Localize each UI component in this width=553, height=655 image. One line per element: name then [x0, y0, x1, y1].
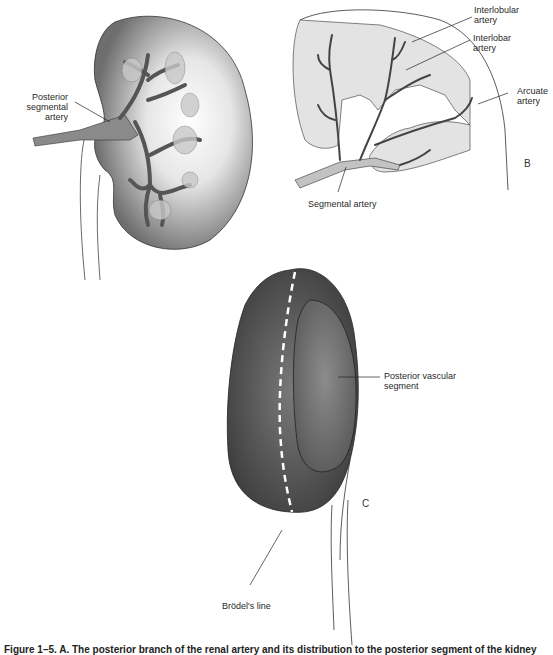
panel-a-kidney [33, 16, 252, 280]
panel-letter-c: C [362, 498, 369, 509]
leader-brodels [250, 530, 282, 585]
label-posterior-segmental-artery: Posterior segmental artery [2, 92, 68, 122]
figure-caption: Figure 1–5. A. The posterior branch of t… [4, 644, 537, 655]
label-interlobular-artery: Interlobular artery [474, 5, 519, 25]
label-posterior-vascular-segment: Posterior vascular segment [384, 371, 456, 391]
panel-c-kidney [227, 269, 358, 645]
label-interlobar-artery: Interlobar artery [473, 33, 511, 53]
label-segmental-artery: Segmental artery [308, 199, 377, 209]
ureter-a [80, 140, 100, 280]
segmental-artery-trunk [295, 158, 400, 188]
leader-arcuate [478, 93, 508, 104]
label-brodels-line: Brödel's line [222, 601, 271, 611]
label-arcuate-artery: Arcuate artery [517, 86, 548, 106]
panel-letter-b: B [524, 158, 531, 169]
